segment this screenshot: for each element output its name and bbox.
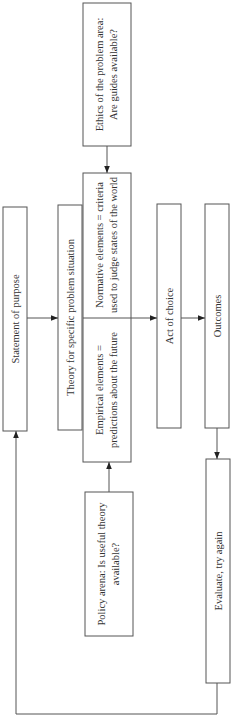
act-of-choice-node: Act of choice: [157, 204, 181, 428]
ethics-node: Ethics of the problem area: Are guides a…: [83, 3, 131, 146]
statement-label: Statement of purpose: [10, 274, 21, 364]
normative-label-line1: Normative elements = criteria: [94, 182, 105, 308]
evaluate-label: Evaluate, try again: [213, 531, 224, 611]
normative-label-line2: used to judge states of the world: [108, 176, 119, 313]
ethics-label-line2: Are guides available?: [108, 29, 119, 120]
normative-empirical-node: Normative elements = criteria used to ju…: [83, 173, 131, 462]
empirical-label-line1: Empirical elements =: [94, 345, 105, 435]
act-label: Act of choice: [164, 287, 175, 344]
empirical-label-line2: predictions about the future: [108, 332, 119, 448]
flow-diagram: Ethics of the problem area: Are guides a…: [0, 0, 246, 716]
statement-of-purpose-node: Statement of purpose: [3, 207, 27, 431]
theory-label: Theory for specific problem situation: [65, 238, 76, 396]
policy-label-line1: Policy arena: Is useful theory: [96, 502, 107, 626]
evaluate-node: Evaluate, try again: [206, 459, 230, 683]
theory-node: Theory for specific problem situation: [58, 205, 82, 430]
outcomes-label: Outcomes: [212, 295, 223, 338]
outcomes-node: Outcomes: [205, 204, 229, 428]
policy-arena-node: Policy arena: Is useful theory available…: [85, 492, 133, 636]
ethics-label-line1: Ethics of the problem area:: [94, 18, 105, 132]
policy-label-line2: available?: [110, 542, 121, 585]
